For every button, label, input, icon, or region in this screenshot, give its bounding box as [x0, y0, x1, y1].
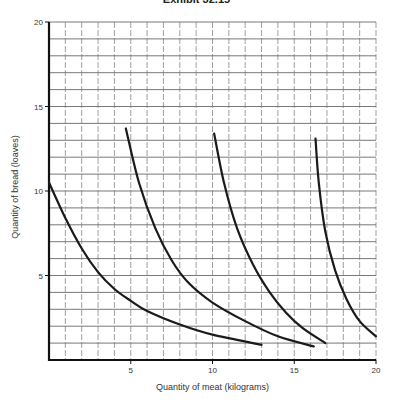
y-tick-label: 20	[34, 18, 43, 27]
x-axis-label: Quantity of meat (kilograms)	[49, 382, 376, 392]
x-tick-label: 10	[208, 366, 217, 375]
chart-plot: 51015205101520	[0, 0, 393, 400]
x-tick-label: 20	[372, 366, 381, 375]
x-tick-label: 5	[129, 366, 134, 375]
y-tick-label: 5	[39, 272, 44, 281]
y-tick-label: 15	[34, 103, 43, 112]
indifference-curve-4	[316, 139, 376, 337]
y-axis-label: Quantity of bread (loaves)	[10, 112, 20, 262]
indifference-curve-3	[214, 134, 325, 344]
x-tick-label: 15	[290, 366, 299, 375]
y-tick-label: 10	[34, 187, 43, 196]
